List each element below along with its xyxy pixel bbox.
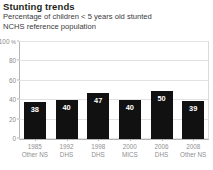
chart-subtitle-line-1: Percentage of children < 5 years old stu… — [3, 12, 210, 22]
bar-slot: 39 — [182, 41, 204, 139]
x-axis-label-group: 1992DHS — [51, 143, 83, 160]
x-axis-year-label: 1992 — [51, 143, 83, 151]
x-axis-label-group: 2008Other NS — [177, 143, 209, 160]
x-axis-source-label: DHS — [146, 151, 178, 160]
bar-1992[interactable]: 40 — [56, 100, 78, 139]
bar-1998[interactable]: 47 — [87, 93, 109, 139]
chart-header: Stunting trends Percentage of children <… — [3, 1, 210, 31]
x-axis-tick-mark-1985 — [35, 139, 36, 141]
bar-value-label: 40 — [56, 103, 78, 112]
x-axis-year-label: 2008 — [177, 143, 209, 151]
bar-value-label: 50 — [151, 94, 173, 103]
x-axis-source-label: DHS — [82, 151, 114, 160]
y-axis-tick-label-40: 40 — [9, 96, 16, 103]
x-axis-tick-mark-1992 — [67, 139, 68, 141]
x-axis-year-label: 1985 — [19, 143, 51, 151]
x-axis-labels: 1985Other NS1992DHS1998DHS2000MICS2006DH… — [19, 143, 209, 168]
x-axis-tick-mark-2008 — [193, 139, 194, 141]
x-axis-year-label: 2000 — [114, 143, 146, 151]
x-axis-source-label: MICS — [114, 151, 146, 160]
x-axis-label-group: 1998DHS — [82, 143, 114, 160]
x-axis-tick-mark-1998 — [98, 139, 99, 141]
bar-slot: 38 — [24, 41, 46, 139]
bar-slot: 50 — [151, 41, 173, 139]
x-axis-line — [19, 139, 209, 140]
y-axis-tick-label-0: 0 — [12, 135, 16, 142]
x-axis-label-group: 2000MICS — [114, 143, 146, 160]
bar-slot: 47 — [87, 41, 109, 139]
chart-subtitle-line-2: NCHS reference population — [3, 22, 210, 32]
bar-value-label: 38 — [24, 105, 46, 114]
bar-value-label: 39 — [182, 104, 204, 113]
y-axis-tick-label-80: 80 — [9, 57, 16, 64]
x-axis-source-label: DHS — [51, 151, 83, 160]
page-title: Stunting trends — [3, 1, 210, 12]
bar-value-label: 47 — [87, 96, 109, 105]
bar-slot: 40 — [56, 41, 78, 139]
y-axis-unit-label: % — [9, 39, 16, 45]
x-axis-tick-mark-2000 — [130, 139, 131, 141]
x-axis-label-group: 1985Other NS — [19, 143, 51, 160]
x-axis-tick-mark-2006 — [162, 139, 163, 141]
x-axis-year-label: 1998 — [82, 143, 114, 151]
bars-layer: 384047405039 — [19, 41, 209, 139]
bar-slot: 40 — [119, 41, 141, 139]
bar-value-label: 40 — [119, 103, 141, 112]
x-axis-source-label: Other NS — [19, 151, 51, 160]
x-axis-label-group: 2006DHS — [146, 143, 178, 160]
x-axis-year-label: 2006 — [146, 143, 178, 151]
y-axis-tick-label-100: 100 % — [0, 38, 16, 45]
bar-2008[interactable]: 39 — [182, 101, 204, 139]
stunting-trends-chart-figure: Stunting trends Percentage of children <… — [0, 0, 213, 170]
bar-2006[interactable]: 50 — [151, 91, 173, 140]
bar-2000[interactable]: 40 — [119, 100, 141, 139]
y-axis-tick-label-20: 20 — [9, 115, 16, 122]
bar-1985[interactable]: 38 — [24, 102, 46, 139]
x-axis-source-label: Other NS — [177, 151, 209, 160]
y-axis-tick-label-60: 60 — [9, 76, 16, 83]
